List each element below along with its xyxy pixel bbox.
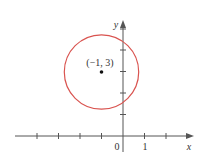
origin-label: 0 [115, 141, 120, 152]
x-axis-arrow-icon [186, 133, 194, 139]
y-axis-label: y [113, 19, 119, 30]
diagram-canvas: (−1, 3) y x 0 1 [0, 0, 205, 161]
x-axis [15, 133, 194, 139]
y-axis-arrow-icon [120, 20, 126, 28]
x-unit-label: 1 [143, 141, 148, 152]
circle-diagram: (−1, 3) y x 0 1 [0, 0, 205, 161]
center-point [100, 70, 104, 74]
center-label: (−1, 3) [86, 57, 113, 69]
x-axis-label: x [186, 141, 192, 152]
